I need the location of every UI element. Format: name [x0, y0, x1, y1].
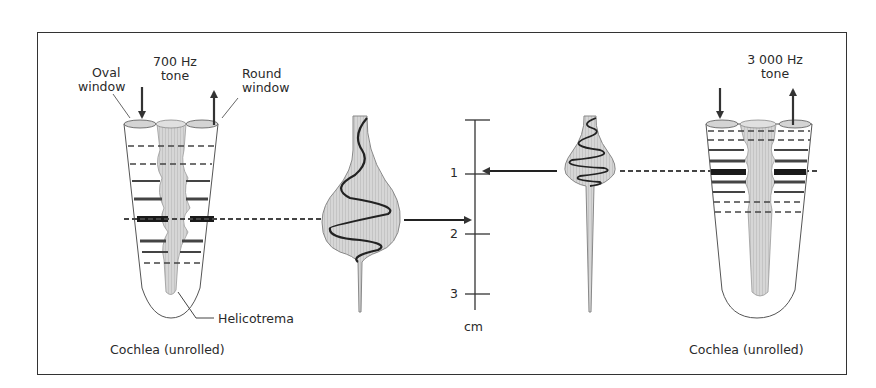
tone-3000hz-line2: tone	[740, 67, 810, 81]
oval-window-label-line1: Oval	[78, 66, 125, 80]
tone-3000hz-label: 3 000 Hz tone	[740, 53, 810, 81]
tone-3000hz-line1: 3 000 Hz	[740, 53, 810, 67]
round-window-label-line1: Round	[242, 67, 289, 81]
left-cochlea	[113, 87, 322, 318]
right-caption: Cochlea (unrolled)	[689, 343, 804, 357]
scale-unit-label: cm	[464, 320, 483, 334]
distance-scale	[465, 120, 490, 310]
right-cochlea	[706, 88, 812, 318]
tone-700hz-line1: 700 Hz	[150, 55, 200, 69]
waveform-700hz	[322, 116, 470, 312]
scale-tick-2: 2	[450, 227, 458, 241]
tone-700hz-label: 700 Hz tone	[150, 55, 200, 83]
helicotrema-label: Helicotrema	[218, 312, 294, 326]
round-window-label: Round window	[242, 67, 289, 95]
tone-700hz-line2: tone	[150, 69, 200, 83]
left-caption: Cochlea (unrolled)	[110, 343, 225, 357]
oval-window-label: Oval window	[78, 66, 125, 94]
scale-tick-1: 1	[450, 166, 458, 180]
oval-window-label-line2: window	[78, 80, 125, 94]
scale-tick-3: 3	[450, 287, 458, 301]
round-window-label-line2: window	[242, 81, 289, 95]
